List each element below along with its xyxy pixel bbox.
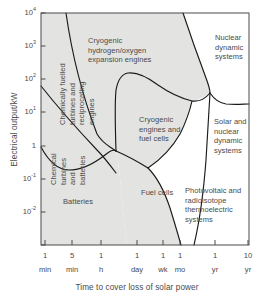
y-axis-title: Electrical output/kW <box>10 70 19 190</box>
x-tick-unit-5min: min <box>58 265 86 274</box>
x-tick-unit-10yr: yr <box>234 265 262 274</box>
x-tick-num-5min: 5 <box>58 251 86 260</box>
x-tick-unit-1h: h <box>87 265 115 274</box>
region-label-cryogenic-engines-fuel-cells: Cryogenic engines and fuel cells <box>139 115 199 144</box>
x-tick-unit-1min: min <box>31 265 59 274</box>
x-tick-num-1h: 1 <box>87 251 115 260</box>
region-label-nuclear-dynamic-systems: Nuclear dynamic systems <box>215 33 273 62</box>
y-tick-label-10e-1: 10-1 <box>2 174 36 183</box>
x-tick-num-1yr: 1 <box>201 251 229 260</box>
x-tick-unit-1day: day <box>123 265 151 274</box>
x-tick-num-10yr: 10 <box>234 251 262 260</box>
y-tick-label-10e3: 103 <box>2 41 36 50</box>
region-label-cryogenic-hydrogen-oxygen: Cryogenic hydrogen/oxygen expansion engi… <box>88 36 176 65</box>
figure-container: 104 103 102 101 1 10-1 10-2 Electrical o… <box>0 0 274 301</box>
x-tick-num-1min: 1 <box>31 251 59 260</box>
x-tick-unit-1yr: yr <box>201 265 229 274</box>
y-tick-exp-4: 4 <box>33 6 36 12</box>
region-label-chemical-turbines-batteries: Chemical turbines and batteries <box>49 123 87 185</box>
y-tick-label-10e-2: 10-2 <box>2 207 36 216</box>
y-tick-exp-neg2: -2 <box>31 205 36 211</box>
y-tick-label-10e1: 101 <box>2 107 36 116</box>
y-tick-label-10e4: 104 <box>2 8 36 17</box>
x-axis-title: Time to cover loss of solar power <box>0 283 274 292</box>
x-tick-unit-1mo: mo <box>166 265 194 274</box>
x-tick-num-1day: 1 <box>123 251 151 260</box>
y-tick-exp-3: 3 <box>33 39 36 45</box>
x-tick-num-1mo: 1 <box>166 251 194 260</box>
region-label-photovoltaic-radioisotope: Photovoltaic and radioisotope thermoelec… <box>185 186 271 224</box>
region-label-solar-nuclear-dynamic: Solar and nuclear dynamic systems <box>214 117 270 155</box>
region-label-chemically-fuelled: Chemically fuelled turbines and reciproc… <box>58 5 96 125</box>
y-tick-exp-2: 2 <box>33 72 36 78</box>
region-label-batteries: Batteries <box>63 197 117 207</box>
y-tick-label-10e2: 102 <box>2 74 36 83</box>
y-tick-exp-1: 1 <box>33 105 36 111</box>
y-tick-label-1: 1 <box>2 141 36 150</box>
y-tick-exp-neg1: -1 <box>31 172 36 178</box>
